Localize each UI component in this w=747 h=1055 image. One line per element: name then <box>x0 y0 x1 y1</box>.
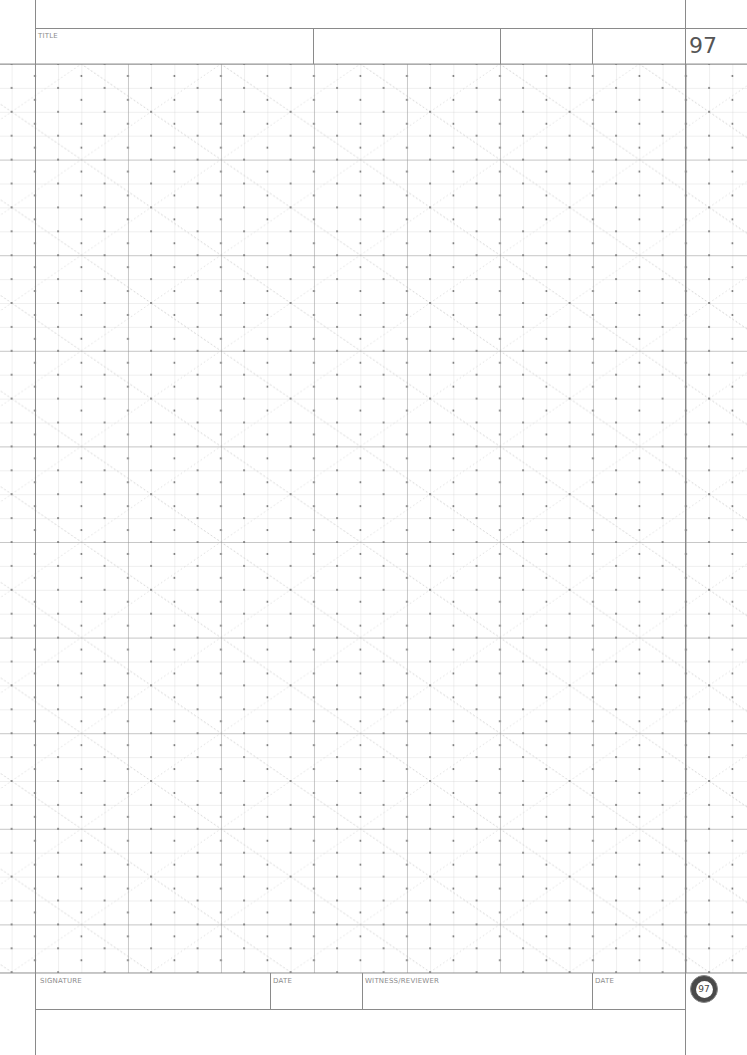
isometric-grid <box>0 0 747 1055</box>
header-divider-2 <box>500 28 501 64</box>
left-margin-line <box>35 0 36 1055</box>
page-badge-icon: 97 <box>690 975 718 1003</box>
footer-bottom-line <box>35 1009 686 1010</box>
title-field[interactable] <box>36 29 312 63</box>
witness-field[interactable] <box>363 974 591 1008</box>
header-divider-1 <box>313 28 314 64</box>
page-number: 97 <box>689 33 717 58</box>
signature-field[interactable] <box>36 974 269 1008</box>
date-field-2[interactable] <box>593 974 684 1008</box>
right-margin-line <box>685 0 686 1055</box>
badge-number: 97 <box>696 981 713 998</box>
header-divider-3 <box>592 28 593 64</box>
date-field-1[interactable] <box>271 974 361 1008</box>
